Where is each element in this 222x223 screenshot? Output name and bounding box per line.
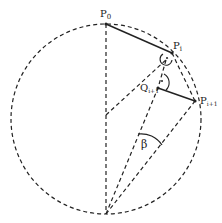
label-q: Qi+1 bbox=[140, 82, 159, 94]
label-pi: Pi bbox=[173, 40, 183, 53]
point-pi bbox=[170, 51, 173, 54]
dashed-bottom-pi1 bbox=[106, 101, 195, 214]
angle-arc-pi bbox=[160, 54, 172, 65]
dashed-bottom-q bbox=[106, 88, 158, 214]
geometry-diagram: P0 Pi Qi+1 Pi+1 β bbox=[0, 0, 222, 223]
label-pi1: Pi+1 bbox=[200, 95, 218, 107]
label-p0: P0 bbox=[100, 8, 111, 21]
point-pi1 bbox=[193, 99, 196, 102]
label-beta: β bbox=[141, 138, 147, 151]
chord-p0-pi bbox=[106, 24, 172, 53]
angle-dot-q bbox=[161, 80, 163, 82]
angle-arc-q bbox=[164, 74, 169, 90]
point-p0 bbox=[104, 22, 107, 25]
segment-q-pi1 bbox=[158, 88, 195, 101]
angle-dot-pi bbox=[166, 57, 168, 59]
